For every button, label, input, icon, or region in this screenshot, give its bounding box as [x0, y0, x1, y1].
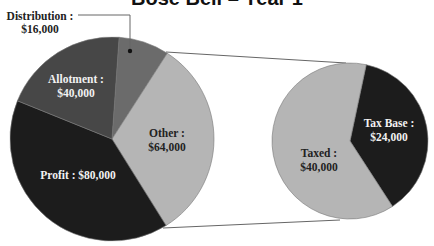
other-label-name: Other : [149, 127, 185, 139]
taxed-label-name: Taxed : [301, 147, 337, 159]
chart-title: Bose Bell – Year 1 [131, 0, 303, 9]
taxed-label-value: $40,000 [300, 161, 338, 173]
pie-of-pie-chart: Bose Bell – Year 1 Distribution : $16,00… [0, 0, 434, 246]
connector-bottom [163, 220, 340, 228]
distribution-label-value: $16,000 [21, 23, 59, 35]
profit-label: Profit : $80,000 [40, 169, 116, 181]
taxbase-label-name: Tax Base : [364, 117, 415, 129]
allotment-label-value: $40,000 [57, 87, 95, 99]
taxbase-label-value: $24,000 [370, 131, 408, 143]
connector-top [166, 52, 346, 63]
allotment-label-name: Allotment : [48, 73, 104, 85]
distribution-leader-dot [128, 49, 132, 53]
distribution-label-name: Distribution : [7, 10, 74, 22]
other-label-value: $64,000 [148, 141, 186, 153]
